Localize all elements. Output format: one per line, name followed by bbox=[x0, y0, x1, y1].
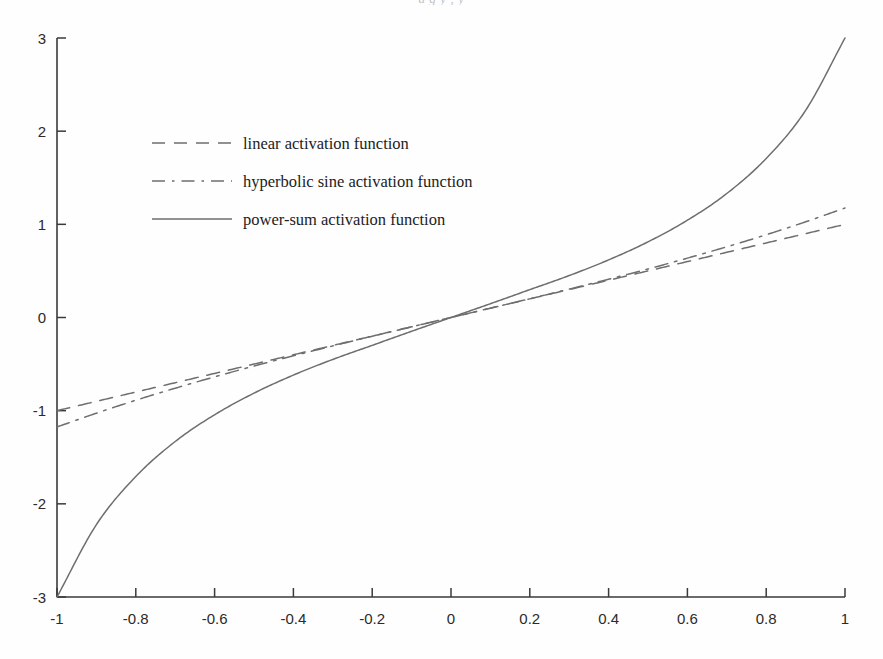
y-tick-label: 0 bbox=[38, 309, 46, 326]
x-tick-label: 0.2 bbox=[519, 610, 540, 627]
x-tick-label: 0 bbox=[447, 610, 455, 627]
legend-label: power-sum activation function bbox=[243, 210, 445, 229]
y-axis-tick-labels: -3-2-10123 bbox=[33, 30, 46, 606]
x-tick-label: 0.8 bbox=[756, 610, 777, 627]
x-tick-label: -0.8 bbox=[123, 610, 149, 627]
legend-label: linear activation function bbox=[243, 134, 409, 153]
figure-container: a g y , y -3-2-10123 -1-0.8-0.6-0.4-0.20… bbox=[0, 0, 883, 659]
x-tick-label: -0.2 bbox=[359, 610, 385, 627]
data-curves bbox=[57, 38, 845, 597]
x-axis-ticks bbox=[57, 588, 845, 597]
x-tick-label: 0.6 bbox=[677, 610, 698, 627]
y-tick-label: 1 bbox=[38, 216, 46, 233]
y-tick-label: 3 bbox=[38, 30, 46, 47]
x-tick-label: 1 bbox=[841, 610, 849, 627]
line-chart: -3-2-10123 -1-0.8-0.6-0.4-0.200.20.40.60… bbox=[0, 0, 883, 659]
chart-legend: linear activation functionhyperbolic sin… bbox=[152, 134, 473, 229]
y-axis-ticks bbox=[57, 38, 66, 597]
y-tick-label: 2 bbox=[38, 123, 46, 140]
x-tick-label: -0.6 bbox=[202, 610, 228, 627]
legend-label: hyperbolic sine activation function bbox=[243, 172, 473, 191]
x-tick-label: 0.4 bbox=[598, 610, 619, 627]
y-tick-label: -2 bbox=[33, 495, 46, 512]
y-tick-label: -1 bbox=[33, 402, 46, 419]
x-tick-label: -0.4 bbox=[280, 610, 306, 627]
x-axis-tick-labels: -1-0.8-0.6-0.4-0.200.20.40.60.81 bbox=[50, 610, 849, 627]
y-tick-label: -3 bbox=[33, 589, 46, 606]
x-tick-label: -1 bbox=[50, 610, 63, 627]
curve-solid bbox=[57, 38, 845, 597]
